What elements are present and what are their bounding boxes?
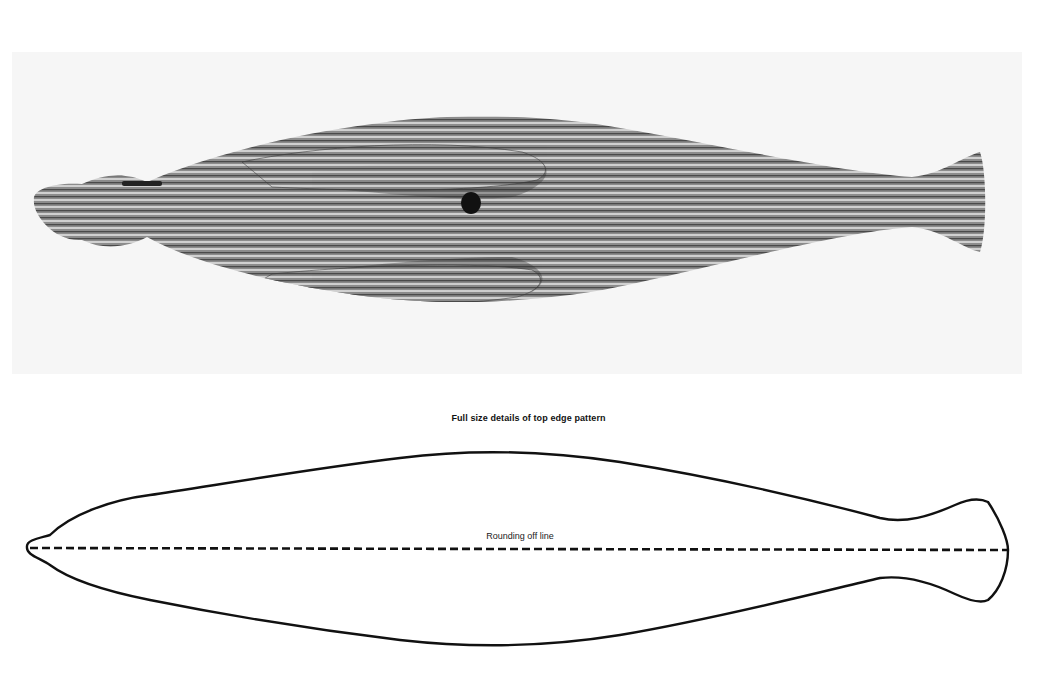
diagram-caption: Full size details of top edge pattern [0, 413, 1057, 423]
hole [461, 192, 481, 214]
seal-carving-photo [12, 52, 1022, 374]
rounding-off-line [30, 548, 1008, 550]
top-edge-pattern-diagram [0, 430, 1057, 660]
rounding-off-line-label: Rounding off line [0, 531, 1040, 541]
seal-carving-illustration [12, 52, 1022, 374]
nostril-mark [122, 181, 162, 186]
